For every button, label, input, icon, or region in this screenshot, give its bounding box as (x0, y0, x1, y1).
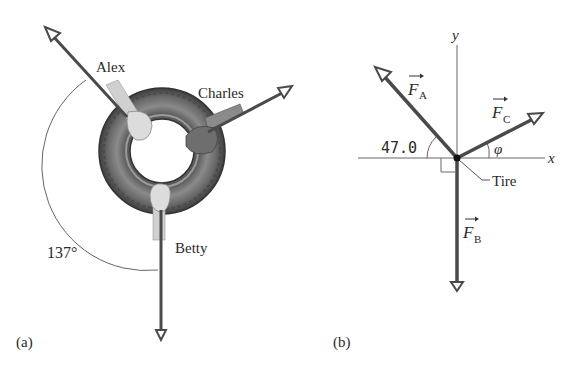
panel-a: Alex Charles Betty 137° (a) (16, 27, 292, 351)
svg-text:F: F (491, 103, 503, 122)
force-b-arrow (451, 158, 463, 291)
y-axis-label: y (450, 27, 459, 43)
panel-a-label: (a) (16, 334, 33, 351)
betty-label: Betty (175, 240, 208, 256)
tire-force-diagram: Alex Charles Betty 137° (a) x y Tire F A (0, 0, 585, 378)
x-axis-label: x (547, 150, 555, 166)
angle-arc-47 (427, 137, 436, 158)
svg-text:C: C (503, 113, 510, 125)
svg-text:F: F (407, 80, 419, 99)
angle-phi-label: φ (494, 141, 502, 157)
tire-point (454, 155, 461, 162)
panel-b-label: (b) (333, 334, 351, 351)
panel-b: x y Tire F A F C (333, 27, 555, 351)
right-angle-marker (441, 158, 455, 172)
tire-label: Tire (492, 173, 517, 189)
force-b-label: F B (462, 217, 481, 246)
angle-47-label: 47.0 (381, 139, 417, 157)
alex-label: Alex (96, 59, 126, 75)
svg-text:A: A (419, 89, 427, 101)
force-c-label: F C (491, 97, 510, 126)
svg-text:B: B (474, 233, 481, 245)
force-a-label: F A (407, 74, 427, 102)
svg-text:F: F (462, 223, 474, 242)
angle-137-label: 137° (47, 244, 77, 261)
tire-leader-line (458, 159, 490, 180)
charles-label: Charles (198, 85, 244, 101)
